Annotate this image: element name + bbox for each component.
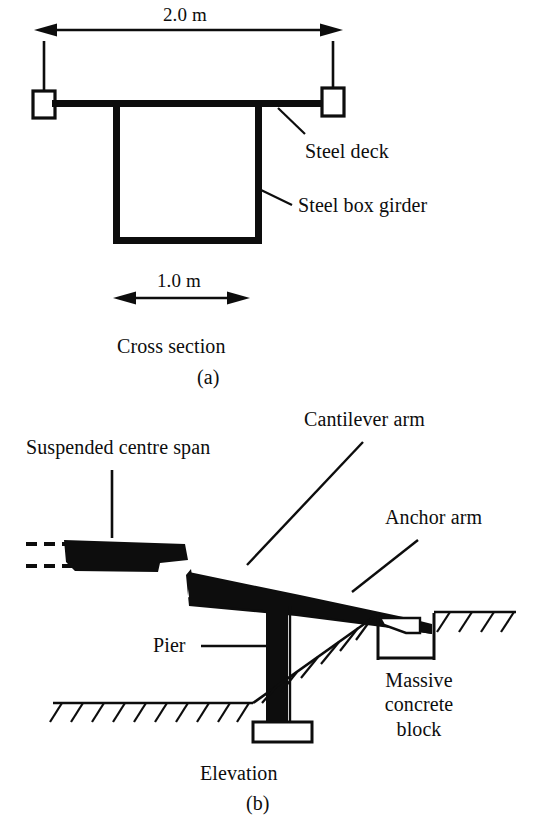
steel-deck-plate xyxy=(52,100,323,107)
steel-deck-leader-line xyxy=(278,108,305,134)
anchor-arm-label: Anchor arm xyxy=(385,506,482,529)
cross-section-caption: Cross section xyxy=(117,335,226,358)
massive-concrete-block xyxy=(377,613,435,660)
massive-concrete-block-label-line1: Massive xyxy=(385,669,452,691)
ground-line-left xyxy=(50,703,253,722)
steel-box-girder-outline xyxy=(113,104,262,244)
cantilever-arm-leader-line xyxy=(247,442,363,565)
girder-width-dimension-label: 1.0 m xyxy=(157,270,201,292)
suspended-centre-span-label: Suspended centre span xyxy=(26,436,210,459)
pier-label: Pier xyxy=(153,634,186,657)
massive-concrete-block-label-line2: concrete xyxy=(385,693,454,715)
ground-line-right xyxy=(434,612,516,632)
steel-box-girder-label: Steel box girder xyxy=(298,194,427,217)
anchor-arm-leader-line xyxy=(352,540,418,592)
massive-concrete-block-label-line3: block xyxy=(397,718,442,740)
cross-section-panel-letter: (a) xyxy=(197,366,220,389)
elevation-caption: Elevation xyxy=(200,762,278,785)
pier-footing xyxy=(253,722,312,742)
hanger-anchor-box-right xyxy=(322,88,344,116)
steel-deck-label: Steel deck xyxy=(305,140,389,163)
girder-width-dimension-arrow xyxy=(113,292,250,305)
massive-concrete-block-label: Massive concrete block xyxy=(364,668,474,741)
hanger-anchor-box-left xyxy=(33,91,55,118)
steel-box-girder-leader-line xyxy=(261,190,292,205)
pier-column xyxy=(266,600,288,725)
deck-width-dimension-label: 2.0 m xyxy=(163,4,207,26)
figure-root: 2.0 m Steel deck Steel box girder 1.0 m … xyxy=(0,0,537,835)
elevation-panel-letter: (b) xyxy=(246,792,270,815)
cantilever-arm-label: Cantilever arm xyxy=(304,408,425,431)
suspended-centre-span-girder xyxy=(64,540,188,572)
cross-section-drawing xyxy=(33,24,344,305)
